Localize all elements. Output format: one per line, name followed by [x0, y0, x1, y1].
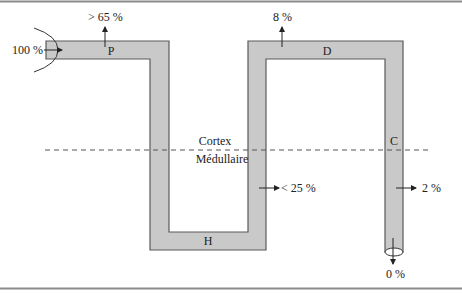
- flow-label-inflow: 100 %: [12, 43, 43, 57]
- zone-label-medulla: Médullaire: [196, 152, 249, 166]
- flow-label-outflow: 0 %: [386, 267, 405, 281]
- segment-label-p: P: [108, 44, 115, 58]
- zone-label-cortex: Cortex: [199, 134, 232, 148]
- flow-label-collecting: 2 %: [422, 181, 441, 195]
- flow-label-distal: 8 %: [273, 10, 292, 24]
- segment-label-c: C: [390, 134, 398, 148]
- segment-label-d: D: [323, 44, 332, 58]
- collecting-duct-opening-icon: [385, 248, 403, 256]
- segment-label-h: H: [204, 234, 213, 248]
- flow-label-loop: < 25 %: [281, 181, 316, 195]
- flow-label-proximal: > 65 %: [88, 10, 123, 24]
- nephron-diagram: P H D C Cortex Médullaire 100 % > 65 % 8…: [0, 0, 462, 293]
